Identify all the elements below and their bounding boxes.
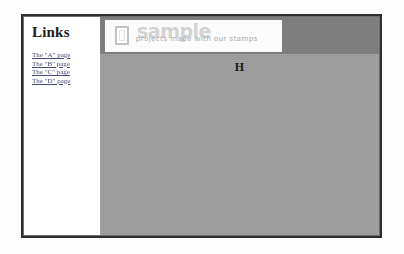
site-banner[interactable]: sample projects made with our stamps (105, 20, 282, 52)
content-body: H (100, 54, 379, 235)
sidebar-link-d-page[interactable]: The "D" page (32, 77, 100, 86)
sidebar-link-b-page[interactable]: The "B" page (32, 60, 100, 69)
sidebar: Links The "A" page The "B" page The "C" … (24, 17, 100, 235)
sidebar-heading-links: Links (32, 24, 100, 40)
screenshot-canvas: Links The "A" page The "B" page The "C" … (0, 0, 404, 254)
sidebar-link-a-page[interactable]: The "A" page (32, 51, 100, 60)
banner-tagline: projects made with our stamps (136, 34, 258, 43)
sidebar-link-list: The "A" page The "B" page The "C" page T… (30, 51, 100, 85)
content-heading: H (100, 60, 379, 74)
stamp-frame-icon (115, 26, 129, 45)
sidebar-link-c-page[interactable]: The "C" page (32, 68, 100, 77)
page-inner: Links The "A" page The "B" page The "C" … (23, 16, 380, 236)
content-body-texture (100, 54, 379, 235)
page-frame: Links The "A" page The "B" page The "C" … (21, 14, 382, 238)
content-area: sample projects made with our stamps H (100, 17, 379, 235)
